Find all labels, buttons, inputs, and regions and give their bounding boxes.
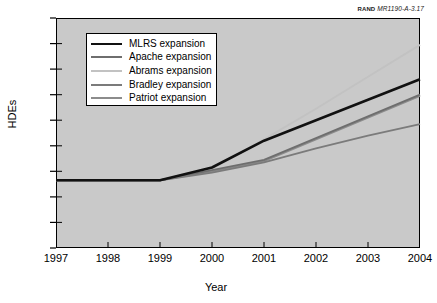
legend-item: Patriot expansion (91, 91, 212, 105)
series-line (56, 124, 420, 180)
legend-swatch (91, 97, 122, 99)
legend-swatch (91, 84, 122, 86)
x-tick-1999: 1999 (135, 252, 185, 264)
legend-label: Patriot expansion (129, 93, 206, 103)
x-tick-2004: 2004 (395, 252, 437, 264)
x-tick-2002: 2002 (291, 252, 341, 264)
chart-legend: MLRS expansionApache expansionAbrams exp… (86, 33, 217, 106)
legend-item: Abrams expansion (91, 64, 212, 78)
x-tick-2000: 2000 (187, 252, 237, 264)
legend-swatch (91, 56, 122, 58)
legend-item: MLRS expansion (91, 37, 212, 51)
x-axis-ticks (108, 242, 368, 248)
legend-label: MLRS expansion (129, 39, 205, 49)
legend-item: Apache expansion (91, 51, 212, 65)
legend-label: Abrams expansion (129, 66, 212, 76)
y-axis-inner-ticks (56, 44, 62, 223)
x-tick-2003: 2003 (343, 252, 393, 264)
x-axis-title: Year (0, 281, 432, 293)
legend-label: Apache expansion (129, 52, 211, 62)
legend-item: Bradley expansion (91, 78, 212, 92)
x-tick-2001: 2001 (239, 252, 289, 264)
legend-swatch (91, 70, 122, 72)
legend-swatch (91, 43, 122, 46)
legend-label: Bradley expansion (129, 80, 211, 90)
x-tick-1997: 1997 (31, 252, 81, 264)
y-axis-title: HDEs (6, 84, 18, 144)
x-tick-1998: 1998 (83, 252, 133, 264)
y-axis-ticks (50, 18, 56, 248)
